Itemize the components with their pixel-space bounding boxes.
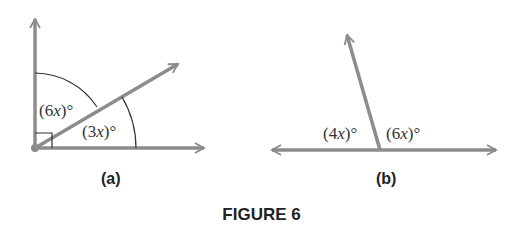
panel-b: (4x)° (6x)°: [272, 35, 496, 150]
figure-6-diagram: (6x)° (3x)° (4x)° (6x)°: [0, 0, 523, 239]
angle-label-3x: (3x)°: [82, 122, 116, 141]
panel-a-label: (a): [101, 170, 121, 188]
angle-label-6x-b: (6x)°: [386, 124, 420, 143]
arc-3x: [122, 97, 136, 148]
angle-label-4x: (4x)°: [323, 124, 357, 143]
panel-a: (6x)° (3x)°: [31, 19, 204, 152]
angle-label-6x: (6x)°: [39, 101, 73, 120]
panel-b-label: (b): [376, 170, 396, 188]
vertex-dot: [31, 144, 39, 152]
figure-caption: FIGURE 6: [0, 205, 523, 225]
